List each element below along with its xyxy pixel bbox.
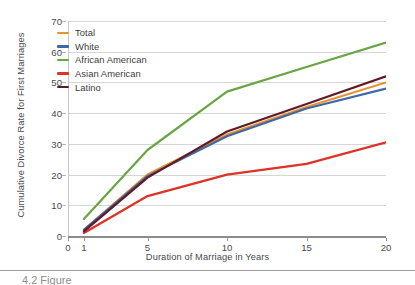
legend-swatch-icon	[57, 45, 69, 48]
legend-swatch-icon	[57, 86, 69, 89]
y-tick-label-0: 0	[20, 231, 62, 242]
legend-swatch-icon	[57, 59, 69, 62]
y-tick-mark-20	[62, 175, 66, 176]
x-tick-mark-5	[148, 238, 149, 241]
y-axis-tick-labels: 010203040506070	[18, 21, 62, 236]
x-tick-mark-20	[386, 238, 387, 241]
x-tick-mark-1	[84, 238, 85, 241]
legend-label: Asian American	[75, 68, 141, 79]
legend-label: African American	[75, 54, 147, 65]
x-tick-mark-15	[307, 238, 308, 241]
y-tick-mark-40	[62, 113, 66, 114]
figure-container: Cumulative Divorce Rate for First Marria…	[0, 0, 415, 285]
chart-legend: TotalWhiteAfrican AmericanAsian American…	[57, 26, 147, 94]
x-axis-title: Duration of Marriage in Years	[0, 252, 415, 262]
legend-label: Latino	[75, 82, 101, 93]
x-tick-mark-10	[227, 238, 228, 241]
footer-caption-partial: 4.2 Figure	[22, 274, 72, 285]
footer-divider	[0, 270, 415, 271]
y-tick-label-20: 20	[20, 169, 62, 180]
legend-item-african-american[interactable]: African American	[57, 53, 147, 67]
x-tick-label-0: 0	[65, 242, 70, 253]
series-line-asian-american	[84, 142, 386, 233]
y-tick-label-60: 60	[20, 46, 62, 57]
x-tick-label-5: 5	[145, 242, 150, 253]
y-tick-mark-70	[62, 21, 66, 22]
legend-label: White	[75, 41, 99, 52]
y-tick-label-70: 70	[20, 16, 62, 27]
x-axis-line	[68, 236, 386, 238]
x-tick-label-15: 15	[301, 242, 312, 253]
legend-item-latino[interactable]: Latino	[57, 80, 147, 94]
y-tick-mark-0	[62, 236, 66, 237]
y-tick-label-30: 30	[20, 138, 62, 149]
legend-swatch-icon	[57, 72, 69, 75]
x-tick-mark-0	[68, 238, 69, 241]
x-tick-label-20: 20	[381, 242, 392, 253]
x-tick-label-10: 10	[222, 242, 233, 253]
legend-swatch-icon	[57, 32, 69, 35]
y-tick-mark-30	[62, 144, 66, 145]
legend-item-total[interactable]: Total	[57, 26, 147, 40]
legend-item-white[interactable]: White	[57, 40, 147, 54]
x-axis-tick-labels: 015101520	[68, 238, 386, 252]
x-tick-label-1: 1	[81, 242, 86, 253]
y-tick-label-10: 10	[20, 200, 62, 211]
y-tick-mark-10	[62, 205, 66, 206]
legend-label: Total	[75, 27, 95, 38]
series-line-white	[84, 89, 386, 230]
y-tick-label-50: 50	[20, 77, 62, 88]
legend-item-asian-american[interactable]: Asian American	[57, 67, 147, 81]
y-tick-label-40: 40	[20, 108, 62, 119]
